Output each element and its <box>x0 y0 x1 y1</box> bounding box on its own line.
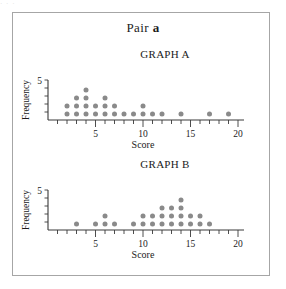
x-axis-tick-label: 15 <box>186 129 196 139</box>
data-dot <box>74 104 79 109</box>
data-dot <box>188 222 193 227</box>
data-dot <box>141 112 146 117</box>
data-dot <box>74 112 79 117</box>
data-dot <box>103 222 108 227</box>
data-dot <box>103 96 108 101</box>
data-dot <box>150 112 155 117</box>
data-dot <box>169 222 174 227</box>
x-axis-tick-label: 15 <box>186 239 196 249</box>
data-dot <box>112 112 117 117</box>
data-dot <box>160 112 165 117</box>
data-dot <box>131 222 136 227</box>
data-dot <box>112 104 117 109</box>
data-dot <box>93 222 98 227</box>
data-dot <box>93 112 98 117</box>
data-dot <box>188 214 193 219</box>
data-dot <box>179 198 184 203</box>
figure-root: · · · Pair a GRAPH A 5Frequency5101520Sc… <box>0 0 286 289</box>
data-dot <box>160 222 165 227</box>
data-dot <box>226 112 231 117</box>
data-dot <box>74 222 79 227</box>
data-dot <box>103 214 108 219</box>
data-dot <box>112 222 117 227</box>
x-axis-tick-label: 10 <box>138 129 148 139</box>
graph-b-plot: 5Frequency5101520Score <box>0 158 286 258</box>
data-dot <box>169 206 174 211</box>
data-dot <box>179 222 184 227</box>
pair-title-prefix: Pair <box>126 20 152 35</box>
data-dot <box>141 214 146 219</box>
data-dot <box>84 96 89 101</box>
data-dot <box>103 104 108 109</box>
data-dot <box>103 112 108 117</box>
top-bleed-text: · · · <box>0 0 286 11</box>
x-axis-tick-label: 20 <box>233 129 243 139</box>
data-dot <box>84 104 89 109</box>
data-dot <box>207 222 212 227</box>
data-dot <box>93 104 98 109</box>
data-dot <box>160 214 165 219</box>
data-dot <box>179 206 184 211</box>
pair-title-letter: a <box>153 20 160 35</box>
data-dot <box>150 214 155 219</box>
x-axis-title: Score <box>132 139 155 148</box>
data-dot <box>169 214 174 219</box>
y-axis-title: Frequency <box>21 80 31 120</box>
data-dot <box>179 214 184 219</box>
page-title: Pair a <box>0 20 286 36</box>
y-axis-tick-label: 5 <box>37 76 42 86</box>
graph-a-plot: 5Frequency5101520Score <box>0 48 286 148</box>
data-dot <box>160 206 165 211</box>
data-dot <box>74 96 79 101</box>
data-dot <box>141 222 146 227</box>
data-dot <box>141 104 146 109</box>
data-dot <box>65 104 70 109</box>
data-dot <box>198 214 203 219</box>
data-dot <box>65 112 70 117</box>
data-dot <box>150 222 155 227</box>
x-axis-tick-label: 5 <box>93 239 98 249</box>
x-axis-tick-label: 5 <box>93 129 98 139</box>
panel-graph-a: GRAPH A 5Frequency5101520Score <box>0 48 286 148</box>
y-axis-tick-label: 5 <box>37 186 42 196</box>
data-dot <box>131 112 136 117</box>
data-dot <box>207 112 212 117</box>
y-axis-title: Frequency <box>21 190 31 230</box>
data-dot <box>122 112 127 117</box>
data-dot <box>198 222 203 227</box>
data-dot <box>179 112 184 117</box>
x-axis-title: Score <box>132 249 155 258</box>
x-axis-tick-label: 10 <box>138 239 148 249</box>
x-axis-tick-label: 20 <box>233 239 243 249</box>
panel-graph-b: GRAPH B 5Frequency5101520Score <box>0 158 286 258</box>
data-dot <box>84 112 89 117</box>
data-dot <box>84 88 89 93</box>
